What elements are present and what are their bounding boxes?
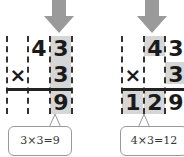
result-tens: 2	[144, 92, 166, 114]
calculation-note: 4×3=12	[120, 126, 184, 156]
multiplicand-tens: 4	[28, 38, 50, 60]
multiplicand-ones: 3	[50, 38, 72, 60]
down-arrow-icon	[137, 0, 167, 34]
result-ones: 9	[50, 92, 72, 114]
multiplier-ones: 3	[165, 64, 184, 86]
down-arrow-icon	[44, 0, 74, 34]
multiplicand-tens: 4	[144, 38, 166, 60]
multiplier-ones: 3	[50, 64, 72, 86]
result-ones: 9	[165, 92, 184, 114]
result-hundreds: 1	[122, 92, 144, 114]
calculation-note: 3×3=9	[8, 126, 72, 156]
operator-sign: ×	[122, 64, 144, 86]
operator-sign: ×	[7, 64, 29, 86]
multiplicand-ones: 3	[165, 38, 184, 60]
